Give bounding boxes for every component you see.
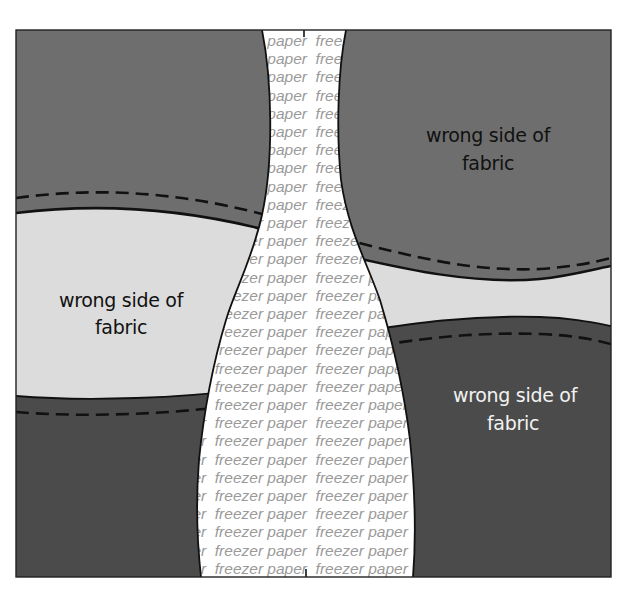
label-top-right-line1: wrong side of [426,124,552,146]
freezer-paper-piecing-diagram: freezer paper freezer paper freezer pape… [0,0,631,597]
label-bottom-right-line1: wrong side of [453,384,579,406]
label-top-right-line2: fabric [462,152,514,174]
label-middle-left-line1: wrong side of [59,289,185,311]
label-middle-left-line2: fabric [95,316,147,338]
label-bottom-right-line2: fabric [487,412,539,434]
